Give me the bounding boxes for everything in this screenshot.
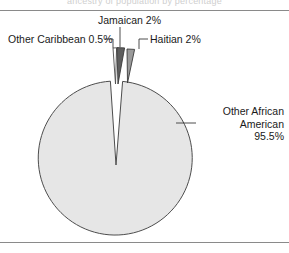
slice-label-line-3: 95.5% — [198, 130, 284, 143]
leader-line-haitian — [139, 39, 148, 49]
slice-label-haitian: Haitian 2% — [150, 33, 201, 46]
pie-chart-figure: ancestry of population by percentage Jam… — [0, 0, 289, 253]
slice-label-other-caribbean: Other Caribbean 0.5% — [8, 33, 112, 46]
slice-label-jamaican: Jamaican 2% — [98, 14, 161, 27]
pie-slice-other-caribbean[interactable] — [113, 48, 117, 84]
slice-label-line-2: American — [198, 118, 284, 131]
pie-slice-haitian[interactable] — [127, 49, 135, 83]
slice-label-other-african-american: Other African American 95.5% — [198, 105, 284, 143]
pie-slice-other-african-american[interactable] — [38, 81, 192, 235]
pie-slice-jamaican[interactable] — [117, 48, 125, 84]
slice-label-line-1: Other African — [198, 105, 284, 118]
